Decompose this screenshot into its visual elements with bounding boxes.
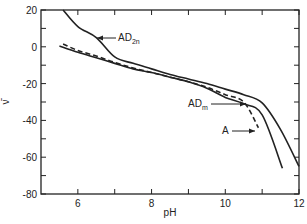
y-tick-label: -80 — [23, 189, 38, 200]
arrowhead-icon — [240, 102, 246, 107]
series-ad2n — [63, 10, 299, 166]
chart: 681012200-20-40-60-80pHν̄AD2nADmA — [0, 0, 307, 224]
y-tick-label: -60 — [23, 152, 38, 163]
arrowhead-icon — [249, 129, 255, 134]
y-tick-label: -20 — [23, 79, 38, 90]
annotation-a: A — [222, 125, 229, 136]
x-tick-label: 10 — [220, 198, 232, 209]
y-tick-label: 20 — [26, 5, 38, 16]
y-axis-label: ν̄ — [0, 98, 11, 105]
y-tick-label: -40 — [23, 115, 38, 126]
x-axis-label: pH — [164, 207, 177, 218]
annotation-ad2n: AD2n — [118, 32, 140, 45]
x-tick-label: 6 — [75, 198, 81, 209]
x-tick-label: 12 — [293, 198, 305, 209]
x-tick-label: 8 — [149, 198, 155, 209]
series-a — [59, 46, 282, 168]
annotation-adm: ADm — [188, 98, 208, 111]
y-tick-label: 0 — [31, 42, 37, 53]
